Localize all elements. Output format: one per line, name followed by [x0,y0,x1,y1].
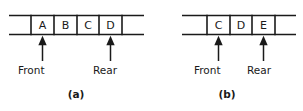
rear-pointer-arrow [259,36,267,61]
panel-caption-a: (a) [0,88,152,100]
queue-svg-a: A B C D [0,0,152,62]
queue-cell-value: A [39,19,47,32]
front-pointer-arrow [214,36,222,61]
queue-panel-a: A B C D Front Rear (a) [0,0,152,111]
front-pointer-label: Front [18,64,45,76]
queue-panel-b: C D E Front Rear (b) [151,0,303,111]
queue-cell-value: C [215,19,223,32]
front-pointer-label: Front [194,64,221,76]
queue-svg-b: C D E [151,0,303,62]
queue-cell-value: E [260,19,267,32]
queue-cell-value: D [237,19,245,32]
rear-pointer-label: Rear [247,64,271,76]
rear-pointer-label: Rear [93,64,117,76]
queue-cell-value: C [84,19,92,32]
panel-caption-b: (b) [151,88,303,100]
queue-diagram-b: C D E [151,0,303,62]
queue-diagram-a: A B C D [0,0,152,62]
queue-cell-value: D [106,19,114,32]
rear-pointer-arrow [106,36,114,61]
queue-figure: A B C D Front Rear (a) [0,0,303,111]
front-pointer-arrow [38,36,46,61]
queue-cell-value: B [62,19,70,32]
